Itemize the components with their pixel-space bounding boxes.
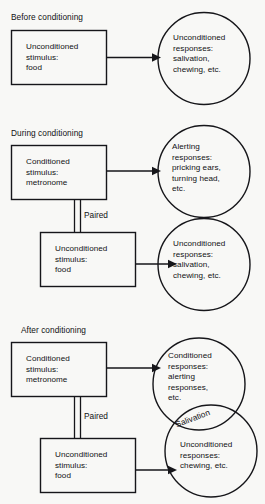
section-label-after: After conditioning — [21, 325, 86, 335]
during-us-box-text: Unconditioned stimulus: food — [55, 244, 107, 276]
section-label-during: During conditioning — [11, 128, 83, 138]
during-ur-circle-text: Unconditioned responses: salivation, che… — [173, 239, 225, 281]
conditioning-diagram: Before conditioning Unconditioned stimul… — [0, 0, 265, 504]
during-cs-arrow-head — [152, 167, 161, 176]
after-ur-circle-text: Unconditioned responses: chewing, etc. — [180, 440, 232, 472]
after-us-box-text: Unconditioned stimulus: food — [55, 450, 107, 482]
before-us-box-text: Unconditioned stimulus: food — [26, 42, 78, 74]
section-label-before: Before conditioning — [11, 12, 83, 22]
during-cs-box-text: Conditioned stimulus: metronome — [26, 157, 70, 189]
before-arrow-head — [152, 53, 161, 62]
after-cr-circle-text: Conditioned responses: alerting response… — [168, 351, 212, 404]
after-paired-label: Paired — [84, 411, 108, 421]
during-paired-label: Paired — [84, 210, 108, 220]
after-cs-box-text: Conditioned stimulus: metronome — [26, 354, 70, 386]
before-ur-circle-text: Unconditioned responses: salivation, che… — [173, 33, 225, 75]
during-alerting-circle-text: Alerting responses: pricking ears, turni… — [172, 142, 221, 195]
